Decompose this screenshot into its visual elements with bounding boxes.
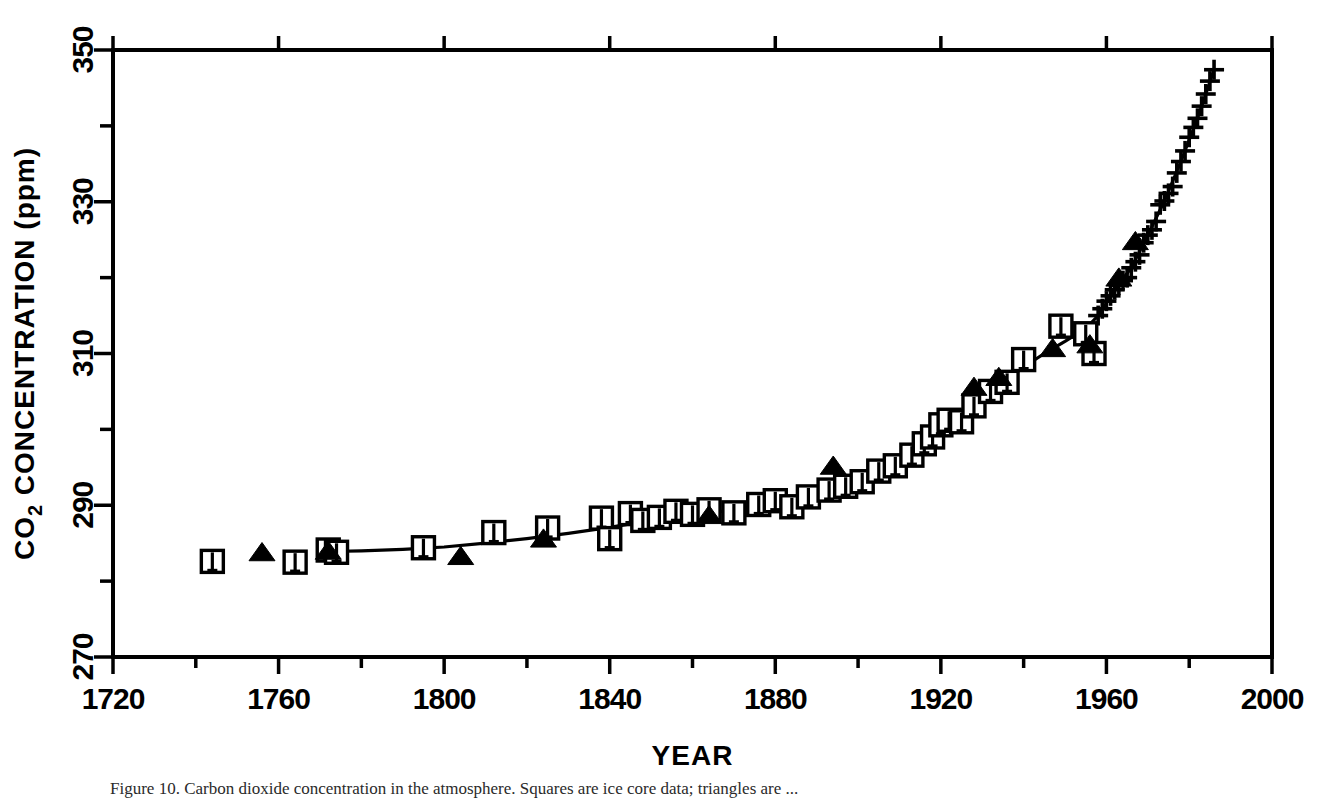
data-point-plus bbox=[1175, 141, 1195, 161]
data-point-plus bbox=[1204, 60, 1224, 80]
fit-curve-path bbox=[328, 70, 1214, 552]
data-point-square bbox=[201, 550, 223, 572]
x-tick-label: 2000 bbox=[1241, 682, 1304, 715]
data-point-square bbox=[483, 522, 505, 544]
y-axis-title-text: CO2 CONCENTRATION (ppm) bbox=[9, 147, 46, 560]
figure-caption: Figure 10. Carbon dioxide concentration … bbox=[110, 776, 1290, 798]
data-point-plus bbox=[1196, 84, 1216, 104]
y-axis-tick-labels: 270290310330350 bbox=[66, 26, 99, 680]
data-point-square bbox=[723, 502, 745, 524]
series-markers bbox=[201, 60, 1224, 573]
x-axis-title: YEAR bbox=[652, 740, 734, 771]
x-axis-tick-labels: 17201760180018401880192019602000 bbox=[82, 682, 1304, 715]
y-tick-label: 350 bbox=[66, 26, 99, 73]
x-tick-label: 1880 bbox=[744, 682, 807, 715]
x-tick-label: 1800 bbox=[413, 682, 476, 715]
figure-container: 17201760180018401880192019602000 2702903… bbox=[0, 0, 1330, 799]
data-point-triangle bbox=[448, 546, 474, 564]
x-tick-label: 1760 bbox=[247, 682, 310, 715]
data-point-plus bbox=[1187, 108, 1207, 128]
x-tick-label: 1960 bbox=[1075, 682, 1138, 715]
data-point-square bbox=[599, 528, 621, 550]
data-point-plus bbox=[1183, 117, 1203, 137]
data-point-plus bbox=[1167, 163, 1187, 183]
series-fit-curve bbox=[328, 70, 1214, 552]
y-tick-label: 310 bbox=[66, 330, 99, 377]
data-point-square bbox=[1050, 315, 1072, 337]
data-point-square bbox=[1013, 349, 1035, 371]
data-point-square bbox=[590, 507, 612, 529]
data-point-plus bbox=[1171, 152, 1191, 172]
x-tick-label: 1920 bbox=[909, 682, 972, 715]
y-tick-label: 270 bbox=[66, 633, 99, 680]
data-point-plus bbox=[1179, 127, 1199, 147]
y-tick-label: 330 bbox=[66, 178, 99, 225]
y-axis-title: CO2 CONCENTRATION (ppm) bbox=[9, 147, 46, 560]
data-point-triangle bbox=[820, 456, 846, 474]
x-tick-label: 1840 bbox=[578, 682, 641, 715]
data-point-triangle bbox=[1040, 338, 1066, 356]
y-tick-label: 290 bbox=[66, 481, 99, 528]
data-point-triangle bbox=[249, 543, 275, 561]
data-point-square bbox=[797, 486, 819, 508]
co2-concentration-chart: 17201760180018401880192019602000 2702903… bbox=[0, 0, 1330, 799]
data-point-plus bbox=[1192, 96, 1212, 116]
x-axis-title-text: YEAR bbox=[652, 740, 734, 771]
data-point-square bbox=[284, 551, 306, 573]
x-tick-label: 1720 bbox=[82, 682, 145, 715]
data-point-plus bbox=[1200, 71, 1220, 91]
data-point-square bbox=[412, 537, 434, 559]
